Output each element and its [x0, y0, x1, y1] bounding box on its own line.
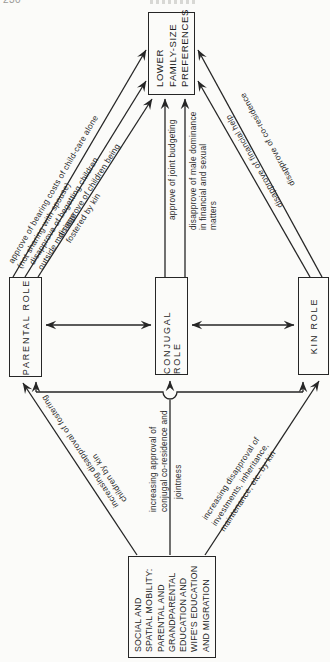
node-conjugal-role: CONJUGAL ROLE: [155, 277, 188, 375]
node-lower-family-size-preferences: LOWER FAMILY-SIZE PREFERENCES: [148, 12, 195, 95]
node-kin-role: KIN ROLE: [298, 277, 329, 375]
label-joint-budgeting: approve of joint budgeting: [167, 119, 177, 220]
node-social-spatial-mobility: SOCIAL AND SPATIAL MOBILITY: PARENTAL AN…: [128, 556, 216, 658]
branch-line-hop: [36, 392, 303, 399]
arrow-social-parental: [23, 383, 137, 555]
label-jointness: jointness: [173, 464, 183, 499]
book-page: 230: [0, 0, 330, 662]
label-conjugal-jointness: increasing approval of conjugal co-resid…: [148, 410, 169, 512]
node-parental-role: PARENTAL ROLE: [9, 277, 42, 377]
rotated-diagram: LOWER FAMILY-SIZE PREFERENCES PARENTAL R…: [0, 0, 330, 662]
label-male-dominance: disapprove of male dominance in financia…: [188, 111, 218, 230]
